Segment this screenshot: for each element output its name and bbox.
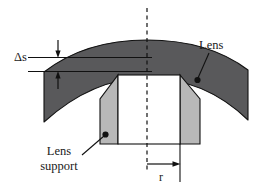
delta-s-top-arrowhead-icon bbox=[55, 51, 60, 59]
lens-support-diagram: Δs Lens Lens support r bbox=[0, 0, 260, 188]
lens-support-callout-group: Lens support bbox=[40, 131, 108, 173]
lens-callout-dot-icon bbox=[194, 77, 200, 83]
lens-support-core bbox=[118, 75, 180, 144]
lens-support-callout-leader-line bbox=[82, 136, 104, 155]
radius-label: r bbox=[159, 170, 163, 184]
lens-support-group bbox=[100, 75, 200, 144]
lens-support-callout-dot-icon bbox=[102, 131, 108, 137]
lens-support-label-line2: support bbox=[40, 159, 78, 173]
diagram-canvas: Δs Lens Lens support r bbox=[0, 0, 260, 188]
lens-support-label-line1: Lens bbox=[47, 144, 71, 158]
radius-arrowhead-icon bbox=[173, 161, 181, 167]
delta-s-label: Δs bbox=[14, 50, 27, 64]
radius-dimension-group: r bbox=[147, 144, 181, 184]
lens-label: Lens bbox=[199, 38, 223, 52]
